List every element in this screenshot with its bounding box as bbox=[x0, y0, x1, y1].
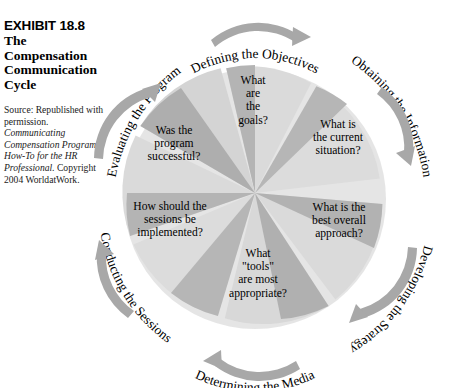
pie-wheel-group bbox=[122, 65, 386, 329]
cycle-wheel-diagram: Defining the Objectives Obtaining the In… bbox=[85, 18, 464, 388]
exhibit-figure: EXHIBIT 18.8 The Compensation Communicat… bbox=[0, 0, 464, 388]
cycle-wheel-svg: Defining the Objectives Obtaining the In… bbox=[85, 18, 464, 388]
arrow-top-icon bbox=[211, 23, 311, 47]
